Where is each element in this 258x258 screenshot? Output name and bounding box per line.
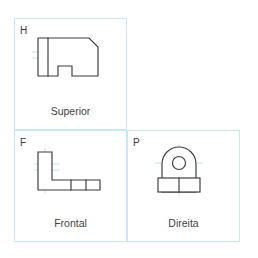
right-view-hole-circle <box>173 157 186 170</box>
top-view-outline <box>38 38 98 76</box>
drawing-canvas: H Superior F Frontal P <box>0 0 258 258</box>
front-view-drawing <box>14 130 127 220</box>
view-label-frontal: Frontal <box>14 218 127 229</box>
right-view-drawing <box>127 130 240 220</box>
top-view-drawing <box>14 18 127 108</box>
front-view-outline <box>38 152 100 190</box>
view-label-direita: Direita <box>127 218 240 229</box>
view-label-superior: Superior <box>14 106 127 117</box>
